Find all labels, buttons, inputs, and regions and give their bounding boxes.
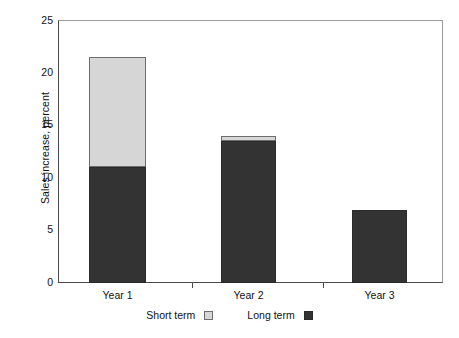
bar-year-1 (89, 57, 146, 283)
legend-swatch-short-term-icon (204, 311, 213, 320)
chart-legend: Short term Long term (0, 309, 459, 321)
y-axis-tick-label-0: 0 (20, 275, 53, 290)
legend-label-short-term: Short term (146, 309, 195, 321)
y-axis-tick-label-10: 10 (20, 170, 53, 185)
bar-year-2 (221, 136, 276, 283)
y-axis-tick-label-20: 20 (20, 65, 53, 80)
bar-segment-long-term-year-3 (352, 210, 407, 283)
y-axis-tick-label-5: 5 (20, 222, 53, 237)
bar-segment-long-term-year-1 (89, 167, 146, 283)
x-axis-tick-mark-2 (323, 283, 324, 288)
x-axis-tick-mark-1 (192, 283, 193, 288)
legend-swatch-long-term-icon (304, 311, 313, 320)
legend-item-short-term: Short term (146, 309, 213, 321)
bar-year-3 (352, 210, 407, 283)
y-axis-tick-label-25: 25 (20, 13, 53, 28)
bar-segment-short-term-year-1 (89, 57, 146, 168)
x-axis-label-year-3: Year 3 (352, 289, 407, 301)
x-axis-label-year-1: Year 1 (89, 289, 146, 301)
stacked-bar-chart: Sales increase, percent 25 20 15 10 5 0 (0, 0, 459, 338)
legend-item-long-term: Long term (247, 309, 312, 321)
bar-segment-long-term-year-2 (221, 141, 276, 283)
x-axis-label-year-2: Year 2 (221, 289, 276, 301)
legend-label-long-term: Long term (247, 309, 294, 321)
y-axis-tick-label-15: 15 (20, 117, 53, 132)
